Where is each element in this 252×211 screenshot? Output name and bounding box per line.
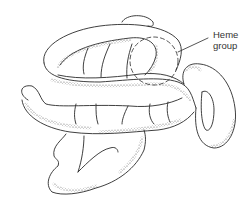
heme-label-line2: group [213, 41, 238, 52]
heme-group-label: Heme group [213, 30, 238, 51]
heme-label-line1: Heme [213, 30, 238, 41]
